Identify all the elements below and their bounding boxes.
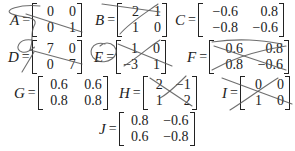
matrix-j-cell-12: −0.6 — [153, 113, 189, 129]
matrix-j-label: J — [99, 121, 106, 138]
matrix-d-cell-12: 0 — [60, 41, 76, 57]
matrix-e-cell-12: 0 — [144, 41, 160, 57]
matrix-h-cell-22: 2 — [169, 93, 191, 109]
matrix-b-cell-21: 1 — [123, 20, 139, 36]
matrix-i-cell-22: 0 — [268, 93, 284, 109]
matrix-i-label: I — [222, 85, 227, 102]
matrix-g-cell-12: 0.6 — [76, 77, 102, 93]
matrix-g-cell-11: 0.6 — [44, 77, 68, 93]
matrix-b-label: B — [95, 12, 104, 29]
matrix-h-cell-12: −1 — [169, 77, 191, 93]
matrix-c-cell-21: −0.8 — [204, 20, 238, 36]
matrix-c-cell-12: 0.8 — [242, 4, 278, 20]
matrix-j-cell-22: −0.8 — [153, 129, 189, 145]
equals-sign: = — [188, 12, 196, 28]
matrix-b: 2 1 1 0 — [117, 3, 167, 37]
matrix-h-cell-11: 2 — [149, 77, 163, 93]
matrix-i: 0 0 1 0 — [240, 76, 290, 110]
matrix-c-equation: C = −0.6 0.8 −0.8 −0.6 — [175, 2, 284, 38]
matrix-a-cell-21: 0 — [38, 20, 54, 36]
matrix-i-cell-12: 0 — [268, 77, 284, 93]
matrix-b-cell-22: 0 — [145, 20, 161, 36]
equals-sign: = — [22, 12, 30, 28]
equals-sign: = — [22, 49, 30, 65]
matrix-i-cell-11: 0 — [246, 77, 262, 93]
textbook-page: A = 0 0 0 1 B = 2 1 1 0 C = −0.6 0.8 −0.… — [0, 0, 295, 151]
matrix-g-cell-21: 0.8 — [44, 93, 68, 109]
matrix-f-cell-11: 0.6 — [215, 41, 243, 57]
matrix-j-cell-21: 0.6 — [125, 129, 149, 145]
matrix-d: 7 0 0 7 — [32, 40, 82, 74]
matrix-j-cell-11: 0.8 — [125, 113, 149, 129]
matrix-h-equation: H = 2 −1 1 2 — [119, 75, 197, 111]
matrix-a-equation: A = 0 0 0 1 — [10, 2, 82, 38]
matrix-a: 0 0 0 1 — [32, 3, 82, 37]
matrix-i-cell-21: 1 — [246, 93, 262, 109]
matrix-d-label: D — [8, 49, 19, 66]
matrix-b-cell-12: 1 — [145, 4, 161, 20]
matrix-b-cell-11: 2 — [123, 4, 139, 20]
matrix-g-equation: G = 0.6 0.6 0.8 0.8 — [14, 75, 108, 111]
matrix-d-equation: D = 7 0 0 7 — [8, 39, 82, 75]
matrix-f-cell-12: 0.8 — [247, 41, 283, 57]
equals-sign: = — [28, 85, 36, 101]
matrix-g-label: G — [14, 85, 25, 102]
matrix-d-cell-21: 0 — [38, 57, 54, 73]
matrix-f-cell-22: −0.6 — [247, 57, 283, 73]
matrix-c: −0.6 0.8 −0.8 −0.6 — [198, 3, 284, 37]
equals-sign: = — [106, 49, 114, 65]
matrix-h-label: H — [119, 85, 130, 102]
matrix-e-equation: E = 1 0 −3 1 — [94, 39, 166, 75]
matrix-a-cell-11: 0 — [38, 4, 54, 20]
equals-sign: = — [230, 85, 238, 101]
matrix-e-cell-11: 1 — [122, 41, 138, 57]
matrix-e-label: E — [94, 49, 103, 66]
matrix-g: 0.6 0.6 0.8 0.8 — [38, 76, 108, 110]
matrix-e-cell-21: −3 — [122, 57, 138, 73]
matrix-d-cell-22: 7 — [60, 57, 76, 73]
matrix-a-cell-22: 1 — [60, 20, 76, 36]
matrix-c-cell-11: −0.6 — [204, 4, 238, 20]
matrix-a-cell-12: 0 — [60, 4, 76, 20]
matrix-h-cell-21: 1 — [149, 93, 163, 109]
matrix-e-cell-22: 1 — [144, 57, 160, 73]
matrix-f-cell-21: 0.8 — [215, 57, 243, 73]
matrix-e: 1 0 −3 1 — [116, 40, 166, 74]
matrix-j: 0.8 −0.6 0.6 −0.8 — [119, 112, 195, 146]
matrix-b-equation: B = 2 1 1 0 — [95, 2, 167, 38]
matrix-h: 2 −1 1 2 — [143, 76, 197, 110]
matrix-f: 0.6 0.8 0.8 −0.6 — [209, 40, 289, 74]
equals-sign: = — [133, 85, 141, 101]
equals-sign: = — [109, 121, 117, 137]
matrix-i-equation: I = 0 0 1 0 — [222, 75, 290, 111]
matrix-a-label: A — [10, 12, 19, 29]
equals-sign: = — [107, 12, 115, 28]
matrix-d-cell-11: 7 — [38, 41, 54, 57]
matrix-g-cell-22: 0.8 — [76, 93, 102, 109]
matrix-c-label: C — [175, 12, 185, 29]
matrix-f-label: F — [187, 49, 196, 66]
matrix-f-equation: F = 0.6 0.8 0.8 −0.6 — [187, 39, 289, 75]
matrix-c-cell-22: −0.6 — [242, 20, 278, 36]
equals-sign: = — [199, 49, 207, 65]
matrix-j-equation: J = 0.8 −0.6 0.6 −0.8 — [99, 111, 195, 147]
